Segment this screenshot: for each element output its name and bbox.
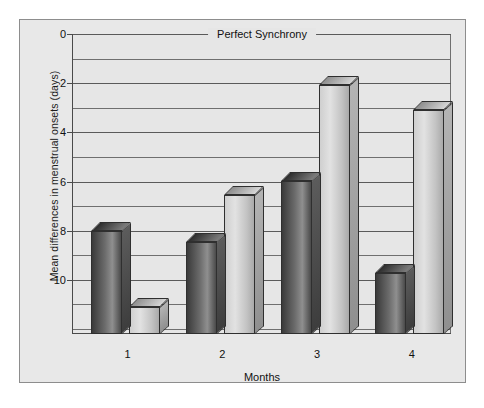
bar-front-face — [91, 231, 122, 334]
bar-side-face — [406, 264, 415, 334]
gridline — [73, 132, 451, 133]
bar-series-b-1[interactable] — [129, 307, 160, 334]
y-tick-mark — [67, 231, 73, 232]
y-tick-label: 10 — [54, 274, 66, 286]
y-tick-label: 4 — [60, 126, 66, 138]
gridline — [73, 182, 451, 183]
bar-series-a-3[interactable] — [281, 181, 312, 334]
bar-series-b-3[interactable] — [319, 85, 350, 334]
bar-front-face — [319, 85, 350, 334]
y-tick-label: 0 — [60, 28, 66, 40]
y-tick-mark — [67, 280, 73, 281]
bar-series-a-2[interactable] — [186, 242, 217, 334]
bar-series-b-4[interactable] — [413, 110, 444, 334]
y-tick-mark — [67, 83, 73, 84]
chart-figure: Mean differences in menstrual onsets (da… — [19, 19, 466, 383]
y-tick-label: 6 — [60, 176, 66, 188]
bar-front-face — [375, 273, 406, 334]
bar-side-face — [312, 173, 321, 334]
gridline — [73, 59, 451, 60]
bar-side-face — [350, 77, 359, 334]
bar-side-face — [217, 234, 226, 334]
x-tick-label: 3 — [314, 348, 320, 360]
bar-front-face — [413, 110, 444, 334]
bar-side-face — [122, 223, 131, 334]
y-tick-mark — [67, 34, 73, 35]
bar-front-face — [281, 181, 312, 334]
chart-title: Perfect Synchrony — [208, 28, 316, 40]
y-axis-title: Mean differences in menstrual onsets (da… — [48, 56, 60, 296]
bar-side-face — [444, 102, 453, 334]
bar-series-a-1[interactable] — [91, 231, 122, 334]
gridline — [73, 83, 451, 84]
y-tick-mark — [67, 182, 73, 183]
plot-area: 0246810 Perfect Synchrony 1234 Months — [72, 34, 451, 334]
bar-front-face — [186, 242, 217, 334]
x-axis-title: Months — [244, 371, 280, 383]
y-tick-label: 8 — [60, 225, 66, 237]
y-tick-mark — [67, 132, 73, 133]
bar-front-face — [129, 307, 160, 334]
bar-series-a-4[interactable] — [375, 273, 406, 334]
bar-series-b-2[interactable] — [224, 195, 255, 334]
bar-front-face — [224, 195, 255, 334]
x-tick-label: 2 — [219, 348, 225, 360]
y-tick-label: 2 — [60, 77, 66, 89]
gridline — [73, 108, 451, 109]
gridline — [73, 157, 451, 158]
x-tick-label: 1 — [124, 348, 130, 360]
x-tick-label: 4 — [409, 348, 415, 360]
bar-side-face — [255, 187, 264, 334]
